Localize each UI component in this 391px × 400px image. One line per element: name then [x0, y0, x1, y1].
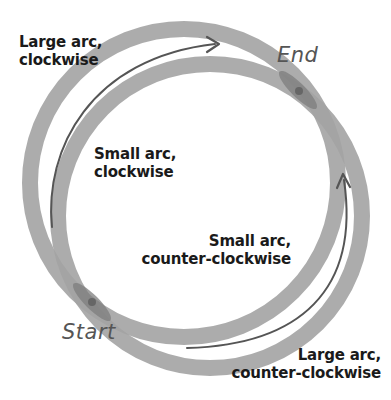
- arc-diagram: Large arc, clockwise Small arc, clockwis…: [0, 0, 391, 400]
- label-line: Small arc,: [94, 145, 176, 163]
- label-large-arc-clockwise: Large arc, clockwise: [19, 33, 102, 69]
- start-label: Start: [62, 320, 116, 344]
- label-large-arc-counter-clockwise: Large arc, counter-clockwise: [232, 346, 381, 382]
- label-line: Small arc,: [142, 232, 291, 250]
- label-small-arc-clockwise: Small arc, clockwise: [94, 145, 176, 181]
- label-line: clockwise: [94, 163, 176, 181]
- end-point: [295, 87, 303, 95]
- label-line: counter-clockwise: [232, 364, 381, 382]
- label-line: counter-clockwise: [142, 250, 291, 268]
- label-line: Large arc,: [19, 33, 102, 51]
- start-point: [88, 298, 96, 306]
- label-line: Large arc,: [232, 346, 381, 364]
- end-label: End: [277, 43, 318, 67]
- label-line: clockwise: [19, 51, 102, 69]
- label-small-arc-counter-clockwise: Small arc, counter-clockwise: [142, 232, 291, 268]
